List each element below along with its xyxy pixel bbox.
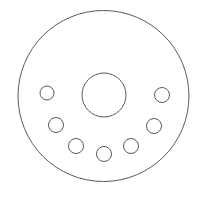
bolt-hole-bottom (97, 147, 112, 162)
bolt-hole-bottom-left (69, 139, 84, 154)
bolt-hole-bottom-right (124, 139, 139, 154)
bolt-hole-lower-left (49, 118, 64, 133)
bolt-hole-lower-right (147, 119, 162, 134)
bolt-hole-left (40, 86, 54, 100)
bolt-hole-pattern (40, 86, 170, 162)
brake-disc-drawing (0, 0, 207, 200)
bolt-hole-right (155, 88, 170, 103)
center-bore (82, 73, 126, 117)
disc-outer-edge (18, 11, 189, 182)
technical-drawing-canvas (0, 0, 207, 200)
